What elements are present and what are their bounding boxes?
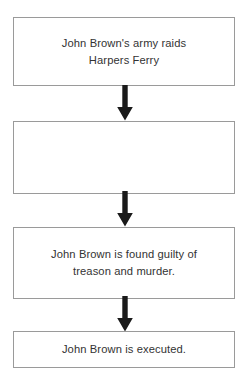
flowchart-node-1-label: John Brown's army raids Harpers Ferry xyxy=(54,35,194,69)
arrow-down-icon xyxy=(0,296,250,332)
flowchart-node-4-label: John Brown is executed. xyxy=(54,341,194,358)
flowchart-node-3-label: John Brown is found guilty of treason an… xyxy=(43,246,205,280)
flowchart-node-4: John Brown is executed. xyxy=(13,331,235,368)
flowchart-node-2 xyxy=(13,121,235,194)
flowchart-node-3: John Brown is found guilty of treason an… xyxy=(13,227,235,299)
arrow-down-icon xyxy=(0,85,250,121)
flowchart-node-1: John Brown's army raids Harpers Ferry xyxy=(13,17,235,86)
arrow-down-icon xyxy=(0,191,250,227)
flowchart-diagram: John Brown's army raids Harpers Ferry Jo… xyxy=(0,0,250,381)
